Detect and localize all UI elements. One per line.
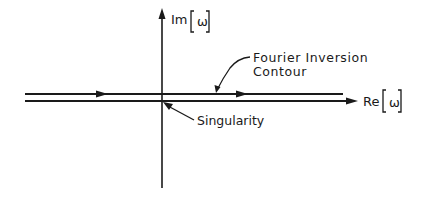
singularity-annotation: Singularity [163,102,265,128]
imaginary-axis-label: Im ω [171,11,209,32]
complex-plane-diagram: Im ω Re ω Fourier Inversion Contour Sing… [0,0,424,199]
real-axis-label: Re ω [363,90,401,112]
svg-text:Contour: Contour [253,64,307,79]
arrow-head-icon [163,102,173,110]
svg-text:ω: ω [197,14,208,29]
leader-line [168,106,194,120]
svg-text:Re: Re [363,94,379,109]
arrow-right-icon [346,98,358,105]
contour-annotation: Fourier Inversion Contour [215,50,369,93]
leader-line [217,57,250,90]
svg-text:Singularity: Singularity [197,113,265,128]
arrow-up-icon [159,8,166,19]
arrow-right-icon [236,91,248,98]
svg-text:Fourier Inversion: Fourier Inversion [253,50,368,65]
imaginary-axis [159,8,166,188]
real-axis [25,98,358,105]
svg-text:ω: ω [389,95,400,110]
svg-text:Im: Im [171,12,188,27]
arrow-right-icon [96,91,108,98]
fourier-inversion-contour [25,91,343,98]
